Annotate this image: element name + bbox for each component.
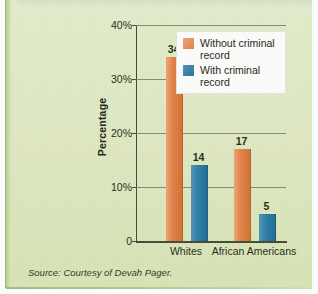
y-axis-tick-label: 10%	[111, 181, 132, 193]
source-note: Source: Courtesy of Devah Pager.	[28, 267, 172, 278]
bar-value-label: 14	[185, 151, 213, 163]
legend-swatch-blue	[183, 65, 194, 76]
legend-label: With criminal record	[200, 64, 280, 88]
y-axis-tick	[132, 241, 136, 242]
y-axis-tick	[132, 79, 136, 80]
bar	[191, 165, 208, 241]
chart-legend: Without criminal recordWith criminal rec…	[176, 31, 286, 94]
y-axis-tick-label: 20%	[111, 127, 132, 139]
y-axis-tick-label: 30%	[111, 73, 132, 85]
bar-value-label: 5	[253, 200, 281, 212]
y-axis-tick-label: 40%	[111, 19, 132, 31]
bar-value-label: 17	[228, 135, 256, 147]
y-axis-tick	[132, 187, 136, 188]
chart-title-band: Discrimination in Hiring	[17, 0, 312, 7]
bar	[234, 149, 251, 241]
decorative-left-stripe	[6, 0, 11, 288]
decorative-bottom-rule	[6, 287, 311, 289]
gridline	[136, 25, 286, 26]
legend-item[interactable]: With criminal record	[183, 64, 280, 88]
legend-item[interactable]: Without criminal record	[183, 37, 280, 61]
y-axis-tick	[132, 25, 136, 26]
legend-swatch-orange	[183, 38, 194, 49]
page-bottom-margin	[0, 289, 318, 294]
gridline	[136, 187, 286, 188]
bar	[259, 214, 276, 241]
x-axis-tick-labels: WhitesAfrican Americans	[136, 245, 296, 261]
gridline	[136, 133, 286, 134]
x-axis-category-label: Whites	[170, 245, 202, 257]
legend-label: Without criminal record	[200, 37, 280, 61]
x-axis-line	[136, 241, 287, 243]
y-axis-tick-labels: 010%20%30%40%	[96, 25, 132, 242]
figure-container: Discrimination in Hiring Percentage 010%…	[0, 0, 318, 294]
page-right-margin	[312, 0, 318, 294]
x-axis-category-label: African Americans	[212, 245, 297, 257]
decorative-left-stripe-edge	[5, 0, 6, 288]
y-axis-tick	[132, 133, 136, 134]
